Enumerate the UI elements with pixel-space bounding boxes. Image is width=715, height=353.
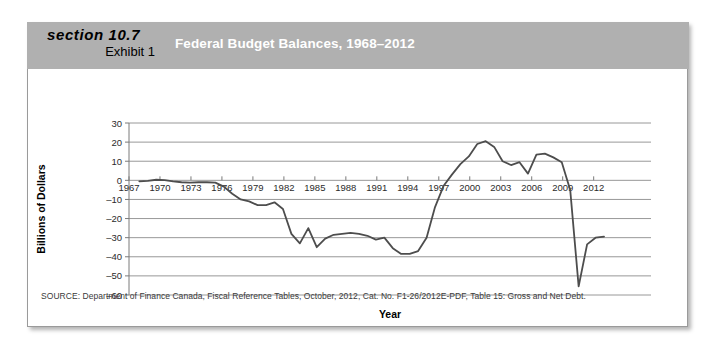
y-tick-label: 20 (111, 137, 122, 148)
y-tick-label: –20 (106, 213, 122, 224)
x-tick-label: 2000 (459, 182, 480, 193)
x-tick-label: 1985 (304, 182, 325, 193)
x-tick-label: 1997 (428, 182, 449, 193)
chart-region: 3020100–10–20–30–40–50–60 19671970197319… (28, 70, 687, 326)
y-tick-label: –50 (106, 270, 122, 281)
x-axis-tick-labels: 1967197019731976197919821985198819911994… (118, 182, 604, 193)
y-axis-tick-labels: 3020100–10–20–30–40–50–60 (106, 118, 129, 301)
x-tick-label: 1982 (273, 182, 294, 193)
x-tick-label: 1988 (335, 182, 356, 193)
x-tick-label: 2003 (490, 182, 511, 193)
exhibit-header: section 10.7 Exhibit 1 Federal Budget Ba… (27, 22, 689, 69)
x-tick-label: 2006 (521, 182, 542, 193)
x-axis-ticks (129, 176, 594, 180)
exhibit-number: Exhibit 1 (27, 43, 157, 60)
x-axis-title: Year (379, 308, 401, 320)
y-tick-label: –40 (106, 251, 122, 262)
budget-balance-line-chart: 3020100–10–20–30–40–50–60 19671970197319… (28, 70, 687, 326)
section-label: section 10.7 (27, 26, 157, 43)
source-note: SOURCE: Department of Finance Canada, Fi… (41, 291, 586, 301)
exhibit-header-left: section 10.7 Exhibit 1 (27, 22, 169, 60)
y-tick-label: 10 (111, 156, 122, 167)
x-tick-label: 1979 (242, 182, 263, 193)
y-tick-label: –10 (106, 194, 122, 205)
budget-balance-series-line (139, 141, 604, 286)
x-tick-label: 1967 (118, 182, 139, 193)
y-tick-label: 30 (111, 118, 122, 129)
exhibit-title: Federal Budget Balances, 1968–2012 (169, 22, 415, 51)
x-tick-label: 1970 (149, 182, 170, 193)
exhibit-card: section 10.7 Exhibit 1 Federal Budget Ba… (27, 22, 688, 327)
y-tick-label: –30 (106, 232, 122, 243)
x-tick-label: 1991 (366, 182, 387, 193)
x-tick-label: 1994 (397, 182, 418, 193)
x-tick-label: 2012 (583, 182, 604, 193)
y-axis-title: Billions of Dollars (35, 164, 47, 253)
x-tick-label: 1973 (180, 182, 201, 193)
